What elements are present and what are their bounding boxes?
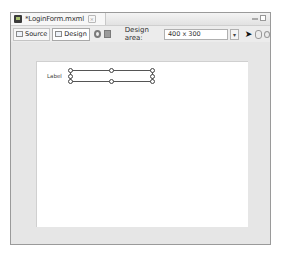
resize-handle-bottom-right[interactable] xyxy=(150,79,155,84)
close-icon[interactable]: × xyxy=(88,15,96,23)
design-area-select[interactable]: 400 x 300 xyxy=(164,29,228,40)
source-button[interactable]: Source xyxy=(13,28,50,41)
design-button[interactable]: Design xyxy=(52,28,89,41)
minimize-icon[interactable] xyxy=(252,18,258,20)
resize-handle-bottom[interactable] xyxy=(109,79,114,84)
label-component[interactable]: Label xyxy=(47,73,62,79)
refresh-icon[interactable] xyxy=(94,30,101,38)
design-area-label: Design area: xyxy=(125,26,160,42)
mxml-editor-window: *LoginForm.mxml × Source Design Design a… xyxy=(10,12,271,245)
mxml-file-icon xyxy=(14,15,22,23)
source-icon xyxy=(16,31,23,37)
resize-handle-top-left[interactable] xyxy=(68,68,73,73)
select-mode-icon[interactable]: ➤ xyxy=(245,29,253,39)
chevron-down-icon[interactable]: ▾ xyxy=(230,29,238,40)
design-toolbar: Source Design Design area: 400 x 300 ▾ ➤ xyxy=(11,26,270,42)
editor-tab-bar: *LoginForm.mxml × xyxy=(11,13,270,26)
design-label: Design xyxy=(64,30,86,38)
tab-title: *LoginForm.mxml xyxy=(25,15,84,23)
show-surrounding-icon[interactable] xyxy=(104,30,111,38)
window-controls xyxy=(252,15,266,21)
design-canvas[interactable]: Label xyxy=(36,61,248,227)
design-area-value: 400 x 300 xyxy=(168,30,201,38)
resize-handle-top-right[interactable] xyxy=(150,68,155,73)
zoom-mode-icon[interactable] xyxy=(264,31,270,38)
design-icon xyxy=(55,31,62,37)
resize-handle-top[interactable] xyxy=(109,68,114,73)
textinput-component-selected[interactable] xyxy=(70,70,153,82)
resize-handle-bottom-left[interactable] xyxy=(68,79,73,84)
maximize-icon[interactable] xyxy=(260,15,266,21)
pan-mode-icon[interactable] xyxy=(255,30,262,39)
source-label: Source xyxy=(25,30,47,38)
editor-tab[interactable]: *LoginForm.mxml × xyxy=(11,13,106,25)
